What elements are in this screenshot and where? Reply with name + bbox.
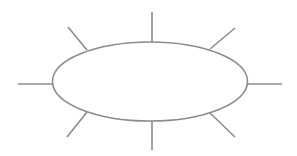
branch-line-top-right [210,28,235,49]
branch-line-top-left [68,27,87,50]
branch-line-bottom-left [67,112,87,137]
branch-line-bottom-right [210,113,235,137]
spider-diagram [0,0,297,156]
center-ellipse [53,42,248,121]
